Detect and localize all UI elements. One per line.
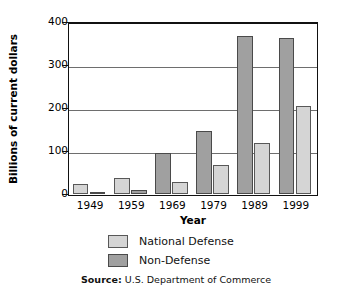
source-value: U.S. Department of Commerce [125,274,271,285]
bar-1989-non-defense [237,36,253,195]
bar-1999-national-defense [296,106,312,194]
legend-swatch-national-defense [108,235,128,248]
y-tick-label: 400 [34,16,68,26]
bar-group-1959 [111,22,152,194]
x-tick-label-1999: 1999 [273,199,319,211]
source-label: Source: [81,274,122,285]
legend-swatch-non-defense [108,254,128,267]
legend: National Defense Non-Defense [108,232,298,270]
x-tick-label-1959: 1959 [108,199,154,211]
bar-1959-non-defense [131,190,147,194]
legend-label-national-defense: National Defense [139,235,234,248]
bar-1959-national-defense [114,178,130,194]
bar-1979-national-defense [213,165,229,194]
source-note: Source: U.S. Department of Commerce [81,274,271,285]
legend-item-national-defense: National Defense [108,232,298,251]
bar-group-1949 [70,22,111,194]
bar-group-1999 [275,22,316,194]
bar-group-1979 [193,22,234,194]
bar-1979-non-defense [196,131,212,195]
x-tick-label-1949: 1949 [67,199,113,211]
bar-1949-national-defense [73,184,89,194]
legend-label-non-defense: Non-Defense [139,254,210,267]
bar-1989-national-defense [254,143,270,195]
bar-group-1969 [152,22,193,194]
y-axis-title-container: Billions of current dollars [2,22,24,196]
bar-1969-national-defense [172,182,188,194]
bar-1949-non-defense [90,192,106,194]
bar-chart-figure: Billions of current dollars 400300200100… [0,0,342,300]
bar-group-1989 [234,22,275,194]
y-axis-title: Billions of current dollars [7,34,19,184]
x-axis-title: Year [68,214,318,226]
bar-series-container [70,22,317,194]
legend-item-non-defense: Non-Defense [108,251,298,270]
x-tick-label-1979: 1979 [191,199,237,211]
x-tick-label-1989: 1989 [232,199,278,211]
bar-1969-non-defense [155,153,171,194]
x-tick-label-1969: 1969 [149,199,195,211]
bar-1999-non-defense [279,38,295,194]
